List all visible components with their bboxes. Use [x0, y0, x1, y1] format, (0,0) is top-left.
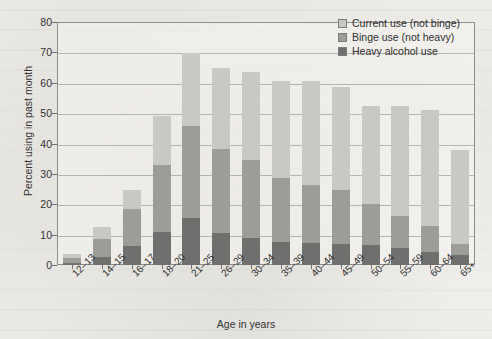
y-tick-label: 0	[30, 260, 52, 270]
bar-group	[242, 72, 260, 265]
y-tick-mark	[52, 83, 57, 84]
legend-item: Binge use (not heavy)	[338, 31, 460, 43]
bar-segment	[362, 204, 380, 245]
y-tick-label: 30	[30, 169, 52, 179]
x-axis-title: Age in years	[0, 318, 492, 330]
bars-layer	[57, 22, 475, 265]
bar-group	[332, 87, 350, 265]
bar-segment	[362, 106, 380, 204]
y-tick-mark	[52, 113, 57, 114]
y-tick-mark	[52, 235, 57, 236]
bar-segment	[391, 106, 409, 215]
x-axis-tick-labels: 12–1314–1516–1718–2021–2526–2930–3435–39…	[57, 265, 475, 315]
legend-label: Binge use (not heavy)	[352, 31, 454, 43]
bar-group	[421, 110, 439, 265]
chart-page: Percent using in past month 010203040506…	[0, 0, 492, 339]
bar-segment	[93, 227, 111, 239]
bar-segment	[302, 81, 320, 185]
bar-segment	[242, 72, 260, 161]
bar-group	[391, 106, 409, 265]
legend-swatch-icon	[338, 33, 347, 42]
y-tick-mark	[52, 144, 57, 145]
bar-segment	[182, 126, 200, 218]
y-tick-label: 20	[30, 199, 52, 209]
legend-label: Heavy alcohol use	[352, 45, 438, 57]
bar-group	[212, 68, 230, 265]
y-tick-mark	[52, 204, 57, 205]
bar-segment	[123, 190, 141, 209]
y-axis-tick-labels: 01020304050607080	[26, 22, 52, 265]
bar-segment	[391, 216, 409, 248]
legend-swatch-icon	[338, 47, 347, 56]
bar-segment	[182, 53, 200, 126]
y-tick-mark	[52, 22, 57, 23]
bar-group	[302, 81, 320, 265]
bar-segment	[153, 116, 171, 165]
bar-segment	[451, 244, 469, 255]
bar-group	[362, 106, 380, 265]
bar-group	[182, 53, 200, 265]
bar-segment	[153, 165, 171, 232]
y-tick-label: 60	[30, 78, 52, 88]
y-tick-mark	[52, 174, 57, 175]
legend-item: Heavy alcohol use	[338, 45, 460, 57]
bar-segment	[272, 178, 290, 242]
chart-legend: Current use (not binge)Binge use (not he…	[338, 17, 460, 57]
bar-group	[451, 150, 469, 265]
y-tick-mark	[52, 265, 57, 266]
bar-segment	[93, 239, 111, 257]
bar-group	[123, 190, 141, 265]
bar-segment	[242, 160, 260, 237]
bar-segment	[332, 190, 350, 243]
bar-segment	[212, 68, 230, 149]
legend-swatch-icon	[338, 19, 347, 28]
bar-group	[153, 116, 171, 265]
bar-segment	[451, 150, 469, 244]
y-tick-label: 10	[30, 230, 52, 240]
legend-item: Current use (not binge)	[338, 17, 460, 29]
bar-group	[272, 81, 290, 265]
y-tick-mark	[52, 52, 57, 53]
y-tick-label: 80	[30, 17, 52, 27]
y-tick-label: 70	[30, 47, 52, 57]
legend-label: Current use (not binge)	[352, 17, 460, 29]
bar-segment	[332, 87, 350, 190]
y-tick-label: 40	[30, 139, 52, 149]
bar-segment	[123, 209, 141, 246]
bar-segment	[421, 110, 439, 225]
bar-segment	[272, 81, 290, 179]
y-tick-label: 50	[30, 108, 52, 118]
bar-segment	[421, 226, 439, 253]
bar-segment	[302, 185, 320, 243]
bar-segment	[212, 149, 230, 233]
